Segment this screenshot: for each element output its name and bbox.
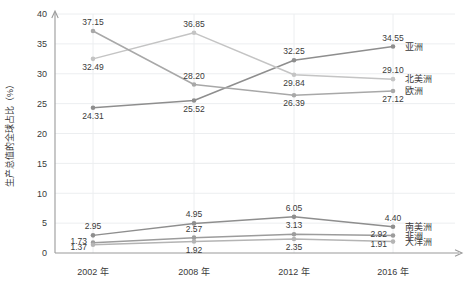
data-point-label: 4.40 <box>385 213 402 223</box>
data-point <box>192 98 197 103</box>
data-point <box>391 239 396 244</box>
data-point-label: 2.35 <box>286 242 303 252</box>
data-point <box>91 29 96 34</box>
data-point-label: 32.25 <box>283 46 305 56</box>
y-tick-label: 20 <box>37 129 47 139</box>
x-tick-label: 2012 年 <box>278 266 310 277</box>
series-line <box>93 234 393 242</box>
data-point-label: 28.20 <box>183 71 205 81</box>
data-point-label: 3.13 <box>286 220 303 230</box>
line-chart: 0510152025303540生产总值的全球占比（%）2002 年2008 年… <box>0 0 469 283</box>
data-point-label: 4.95 <box>186 209 203 219</box>
data-point <box>292 237 297 242</box>
y-tick-label: 40 <box>37 9 47 19</box>
data-point <box>292 215 297 220</box>
data-point-label: 1.91 <box>370 239 387 249</box>
data-point-label: 24.31 <box>82 111 104 121</box>
y-tick-label: 10 <box>37 189 47 199</box>
series-line <box>93 33 393 79</box>
y-tick-label: 5 <box>42 218 47 228</box>
data-point-label: 6.05 <box>286 203 303 213</box>
data-point-label: 25.52 <box>183 104 205 114</box>
data-point-label: 29.10 <box>382 65 404 75</box>
data-point <box>292 58 297 63</box>
series-line <box>93 217 393 236</box>
x-axis <box>55 250 462 256</box>
data-point-label: 29.84 <box>283 78 305 88</box>
data-point-label: 36.85 <box>183 19 205 29</box>
data-point <box>91 105 96 110</box>
data-point <box>292 93 297 98</box>
x-tick-labels: 2002 年2008 年2012 年2016 年 <box>77 266 409 277</box>
series-line <box>93 31 393 95</box>
x-tick-label: 2008 年 <box>178 266 210 277</box>
data-point-label: 34.55 <box>382 33 404 43</box>
data-point <box>391 77 396 82</box>
data-point <box>192 82 197 87</box>
series-name-label: 大洋洲 <box>405 236 432 247</box>
data-point <box>192 239 197 244</box>
data-point <box>91 243 96 248</box>
y-tick-label: 35 <box>37 39 47 49</box>
data-point <box>91 233 96 238</box>
data-point <box>292 72 297 77</box>
series-name-label: 北美洲 <box>405 73 432 84</box>
data-point <box>391 44 396 49</box>
y-tick-label: 25 <box>37 99 47 109</box>
y-tick-labels: 0510152025303540 <box>37 9 47 258</box>
data-point <box>192 31 197 36</box>
data-point-label: 27.12 <box>382 94 404 104</box>
series-name-label: 欧洲 <box>405 85 423 96</box>
data-point <box>391 89 396 94</box>
series-2: 37.1528.2026.3927.12欧洲 <box>82 17 423 108</box>
y-axis <box>52 11 58 253</box>
data-point-label: 1.37 <box>70 242 87 252</box>
series-0: 24.3125.5232.2534.55亚洲 <box>82 33 423 121</box>
data-point <box>292 232 297 237</box>
horizontal-gridlines <box>55 14 455 223</box>
y-axis-title: 生产总值的全球占比（%） <box>4 80 15 187</box>
data-point <box>91 57 96 62</box>
data-point-label: 37.15 <box>82 17 104 27</box>
data-point-label: 2.95 <box>85 221 102 231</box>
y-tick-label: 15 <box>37 159 47 169</box>
data-point-label: 26.39 <box>283 98 305 108</box>
data-point-label: 2.92 <box>370 229 387 239</box>
y-tick-label: 30 <box>37 69 47 79</box>
data-point-label: 1.92 <box>186 245 203 255</box>
chart-canvas: 0510152025303540生产总值的全球占比（%）2002 年2008 年… <box>0 0 469 283</box>
x-tick-label: 2016 年 <box>377 266 409 277</box>
y-tick-label: 0 <box>42 248 47 258</box>
data-point-label: 2.57 <box>186 224 203 234</box>
data-point-label: 32.49 <box>82 62 104 72</box>
data-point <box>391 224 396 229</box>
series-name-label: 亚洲 <box>405 42 423 52</box>
x-tick-label: 2002 年 <box>77 266 109 277</box>
series-5: 1.371.922.351.91大洋洲 <box>70 236 432 255</box>
data-point <box>391 233 396 238</box>
